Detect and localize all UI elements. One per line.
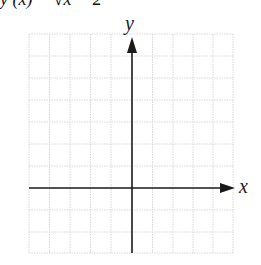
x-axis-label: x [239, 175, 248, 198]
y-axis-label: y [125, 12, 134, 35]
y-axis-arrow-icon [127, 37, 137, 53]
coordinate-grid [0, 0, 261, 265]
grid-lines [29, 34, 233, 253]
